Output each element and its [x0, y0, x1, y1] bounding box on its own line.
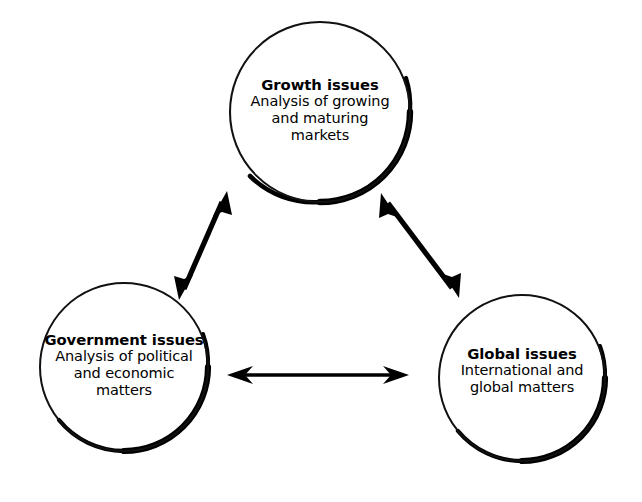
- node-line-global-1: International and: [432, 362, 612, 379]
- node-line-government-1: Analysis of political: [14, 348, 234, 365]
- node-line-growth-1: Analysis of growing: [220, 93, 420, 110]
- connector-growth-government-shaft: [184, 202, 222, 289]
- connector-government-global: [227, 366, 409, 384]
- diagram-canvas: Growth issues Analysis of growing and ma…: [0, 0, 642, 502]
- node-line-global-2: global matters: [432, 379, 612, 396]
- node-label-global: Global issues International and global m…: [432, 345, 612, 396]
- node-title-government: Government issues: [14, 331, 234, 348]
- connector-growth-global-arrowhead-bottom: [443, 273, 461, 298]
- node-line-growth-3: markets: [220, 127, 420, 144]
- connector-growth-government: [174, 191, 232, 300]
- node-line-government-2: and economic: [14, 365, 234, 382]
- connector-growth-global-arrowhead-top: [379, 193, 397, 218]
- node-label-growth: Growth issues Analysis of growing and ma…: [220, 76, 420, 144]
- node-title-growth: Growth issues: [220, 76, 420, 93]
- connector-growth-government-arrowhead-bottom: [174, 275, 193, 300]
- node-title-global: Global issues: [432, 345, 612, 362]
- connector-growth-global: [379, 193, 461, 298]
- connector-growth-global-shaft: [388, 203, 452, 288]
- node-line-government-3: matters: [14, 382, 234, 399]
- node-label-government: Government issues Analysis of political …: [14, 331, 234, 399]
- node-line-growth-2: and maturing: [220, 110, 420, 127]
- connector-growth-government-arrowhead-top: [213, 191, 232, 216]
